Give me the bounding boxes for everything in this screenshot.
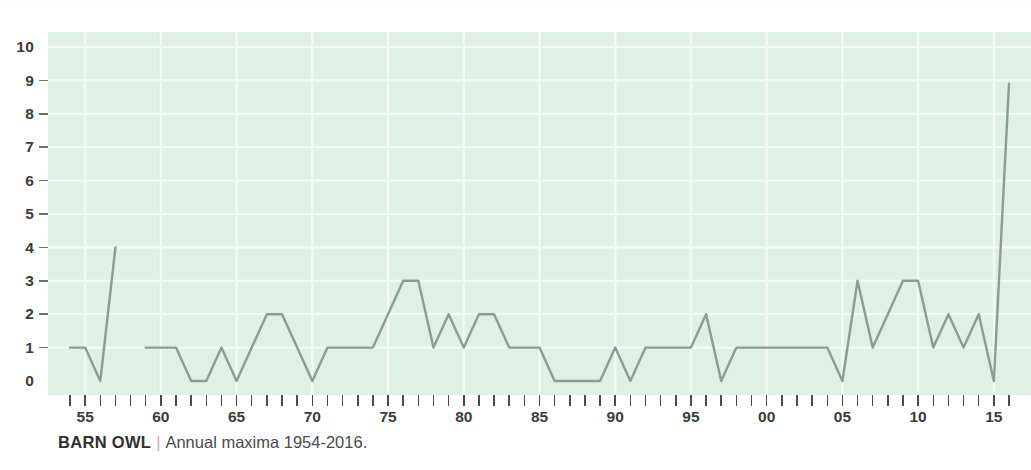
x-axis-label-70: 70 [304,409,321,425]
x-axis-tick [781,395,783,406]
y-axis-tick-dash [39,213,48,215]
y-axis: 012345678910 [0,18,48,410]
x-axis-tick [614,395,616,406]
y-axis-tick-7: 7 [25,140,48,154]
x-axis-tick [418,395,420,406]
y-axis-tick-label: 1 [25,340,34,356]
x-axis-tick [130,395,132,406]
caption-subtitle: Annual maxima 1954-2016. [165,433,367,451]
y-axis-tick-label: 7 [25,139,34,155]
x-axis-tick [206,395,208,406]
x-axis-tick [221,395,223,406]
chart-caption: BARN OWL|Annual maxima 1954-2016. [58,434,367,451]
y-axis-tick-10: 10 [16,40,48,54]
x-axis-label-90: 90 [607,409,624,425]
x-axis-tick [524,395,526,406]
x-axis-label-05: 05 [834,409,851,425]
x-axis-tick [463,395,465,406]
x-axis-tick [705,395,707,406]
x-axis-tick [493,395,495,406]
y-axis-tick-dash [39,313,48,315]
x-axis-label-00: 00 [758,409,775,425]
x-axis-tick [811,395,813,406]
x-axis-tick [312,395,314,406]
x-axis-label-80: 80 [455,409,472,425]
x-axis-tick [251,395,253,406]
x-axis-tick [660,395,662,406]
x-axis-label-15: 15 [985,409,1002,425]
x-axis-tick [190,395,192,406]
x-axis: 55606570758085909500051015 [48,395,1031,435]
y-axis-tick-label: 8 [25,106,34,122]
x-axis-tick [69,395,71,406]
x-axis-tick [751,395,753,406]
x-axis-tick [675,395,677,406]
x-axis-tick [296,395,298,406]
y-axis-tick-label: 2 [25,306,34,322]
x-axis-tick [599,395,601,406]
x-axis-tick [145,395,147,406]
line-chart-svg [48,32,1031,395]
x-axis-tick [842,395,844,406]
x-axis-tick [993,395,995,406]
x-axis-tick [402,395,404,406]
y-axis-tick-6: 6 [25,174,48,188]
x-axis-tick [630,395,632,406]
x-axis-label-75: 75 [379,409,396,425]
y-axis-tick-label: 4 [25,240,34,256]
x-axis-tick [887,395,889,406]
x-axis-tick [448,395,450,406]
x-axis-tick [175,395,177,406]
x-axis-tick [902,395,904,406]
x-axis-tick [766,395,768,406]
x-axis-tick [569,395,571,406]
y-axis-tick-5: 5 [25,207,48,221]
y-axis-tick-dash [39,146,48,148]
y-axis-tick-dash [39,113,48,115]
x-axis-tick [584,395,586,406]
x-axis-label-60: 60 [152,409,169,425]
x-axis-tick [342,395,344,406]
y-axis-tick-4: 4 [25,240,48,254]
x-axis-tick [554,395,556,406]
y-axis-tick-1: 1 [25,341,48,355]
x-axis-label-65: 65 [228,409,245,425]
x-axis-tick [327,395,329,406]
y-axis-tick-2: 2 [25,307,48,321]
x-axis-tick [963,395,965,406]
x-axis-tick [433,395,435,406]
x-axis-tick [357,395,359,406]
x-axis-tick [236,395,238,406]
x-axis-tick [508,395,510,406]
x-axis-label-95: 95 [682,409,699,425]
x-axis-tick [978,395,980,406]
y-axis-tick-dash [39,180,48,182]
y-axis-tick-label: 5 [25,206,34,222]
chart-container: 012345678910 55606570758085909500051015 [0,18,1031,410]
x-axis-label-85: 85 [531,409,548,425]
y-axis-tick-0: 0 [25,374,48,388]
x-axis-tick [796,395,798,406]
x-axis-tick [827,395,829,406]
y-axis-tick-label: 10 [16,39,34,55]
caption-separator: | [151,433,165,451]
x-axis-tick [857,395,859,406]
x-axis-tick [690,395,692,406]
y-axis-tick-dash [39,247,48,249]
x-axis-tick [281,395,283,406]
x-axis-label-10: 10 [910,409,927,425]
page-top-bleed [0,0,1031,12]
y-axis-tick-dash [39,280,48,282]
x-axis-tick [1008,395,1010,406]
x-axis-tick [917,395,919,406]
x-axis-tick [387,395,389,406]
x-axis-tick [872,395,874,406]
x-axis-tick [84,395,86,406]
y-axis-tick-3: 3 [25,274,48,288]
x-axis-tick [948,395,950,406]
x-axis-tick [539,395,541,406]
y-axis-tick-9: 9 [25,73,48,87]
x-axis-tick [372,395,374,406]
y-axis-tick-label: 6 [25,173,34,189]
y-axis-tick-label: 3 [25,273,34,289]
